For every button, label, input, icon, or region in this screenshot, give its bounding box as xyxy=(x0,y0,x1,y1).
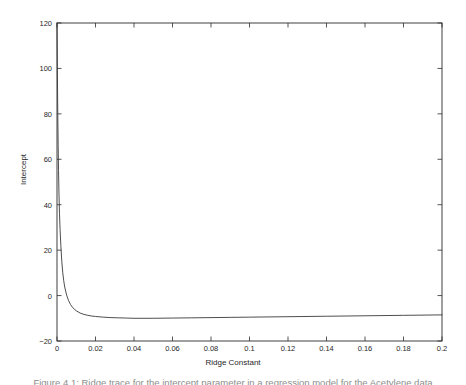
y-axis-title-wrapper: Intercept xyxy=(16,0,30,385)
x-tick-label: 0.04 xyxy=(127,344,142,353)
x-tick-label: 0.1 xyxy=(244,344,254,353)
data-series-0 xyxy=(57,23,442,318)
y-axis-title: Intercept xyxy=(19,142,28,198)
x-axis-title: Ridge Constant xyxy=(0,358,466,367)
figure-container: 00.020.040.060.080.10.120.140.160.180.2 … xyxy=(0,0,466,385)
y-tick-label: 80 xyxy=(44,109,52,118)
x-tick-label: 0.2 xyxy=(437,344,447,353)
x-tick-label: 0.12 xyxy=(281,344,296,353)
y-tick-label: −20 xyxy=(39,337,52,346)
y-tick-label: 120 xyxy=(39,19,52,28)
figure-caption: Figure 4.1: Ridge trace for the intercep… xyxy=(0,377,466,385)
y-tick-label: 0 xyxy=(48,291,52,300)
axes-box xyxy=(57,23,442,341)
x-tick-label: 0.18 xyxy=(396,344,411,353)
x-tick-label: 0.16 xyxy=(358,344,373,353)
x-tick-label: 0 xyxy=(55,344,59,353)
x-tick-label: 0.02 xyxy=(88,344,103,353)
y-tick-label: 100 xyxy=(39,64,52,73)
y-tick-label: 20 xyxy=(44,246,52,255)
y-tick-label: 60 xyxy=(44,155,52,164)
x-tick-label: 0.14 xyxy=(319,344,334,353)
chart-plot-area xyxy=(0,0,466,385)
y-tick-label: 40 xyxy=(44,200,52,209)
data-series-group xyxy=(57,23,442,318)
x-tick-label: 0.08 xyxy=(204,344,219,353)
x-tick-label: 0.06 xyxy=(165,344,180,353)
axis-ticks xyxy=(57,23,442,341)
